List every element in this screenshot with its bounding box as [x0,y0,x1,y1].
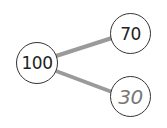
part-circle-1: 70 [110,13,151,54]
line-to-part-1 [56,38,112,56]
part-circle-2: 30 [110,76,151,117]
line-to-part-2 [56,71,112,92]
whole-value: 100 [22,53,53,73]
part-2-value: 30 [118,85,142,109]
part-1-value: 70 [120,24,141,44]
whole-circle: 100 [16,42,58,84]
